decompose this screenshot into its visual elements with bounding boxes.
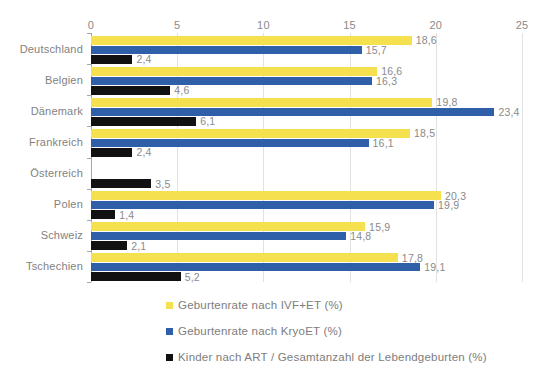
- bar-value-label: 18,6: [416, 34, 437, 46]
- y-axis-tick: [87, 220, 91, 221]
- y-axis-tick: [87, 33, 91, 34]
- plot-area: 18,615,72,416,616,34,619,823,46,118,516,…: [91, 33, 522, 282]
- bar-value-label: 19,9: [438, 199, 459, 211]
- bar-value-label: 6,1: [200, 115, 215, 127]
- x-axis-tick-label: 15: [343, 19, 356, 31]
- bar-value-label: 19,8: [436, 96, 457, 108]
- bar: [91, 263, 420, 271]
- bar-value-label: 15,7: [366, 44, 387, 56]
- bar: [91, 210, 115, 219]
- y-axis-tick: [87, 158, 91, 159]
- bar: [91, 67, 377, 76]
- bar-value-label: 17,8: [402, 252, 423, 264]
- x-axis-tick-label: 20: [429, 19, 442, 31]
- bar-chart: DeutschlandBelgienDänemarkFrankreichÖste…: [0, 0, 551, 377]
- legend-swatch-icon: [166, 354, 173, 361]
- x-axis-tick-label: 25: [516, 19, 529, 31]
- legend-swatch-icon: [166, 302, 173, 309]
- category-label: Frankreich: [29, 136, 83, 148]
- y-axis-tick: [87, 282, 91, 283]
- bar-value-label: 16,1: [373, 137, 394, 149]
- bar-value-label: 1,4: [119, 209, 134, 221]
- bar: [91, 139, 369, 147]
- bar: [91, 272, 181, 281]
- y-axis-tick: [87, 251, 91, 252]
- legend-item[interactable]: Kinder nach ART / Gesamtanzahl der Leben…: [0, 344, 551, 370]
- bar: [91, 86, 170, 95]
- y-axis-tick: [87, 64, 91, 65]
- bar: [91, 108, 494, 116]
- bar-value-label: 3,5: [155, 178, 170, 190]
- x-axis: 0510152025: [91, 5, 522, 31]
- bar: [91, 148, 132, 157]
- legend: Geburtenrate nach IVF+ET (%)Geburtenrate…: [0, 292, 551, 370]
- legend-label: Geburtenrate nach IVF+ET (%): [178, 299, 343, 311]
- bar: [91, 241, 127, 250]
- bar-value-label: 23,4: [498, 106, 519, 118]
- legend-swatch-icon: [166, 328, 173, 335]
- x-axis-tick-label: 10: [257, 19, 270, 31]
- gridline: [522, 33, 523, 282]
- category-label: Deutschland: [20, 43, 83, 55]
- legend-item[interactable]: Geburtenrate nach IVF+ET (%): [0, 292, 551, 318]
- bar: [91, 222, 365, 231]
- legend-label: Geburtenrate nach KryoET (%): [178, 325, 342, 337]
- bar: [91, 117, 196, 126]
- bar-value-label: 16,3: [376, 75, 397, 87]
- y-axis-tick: [87, 126, 91, 127]
- y-axis-tick: [87, 189, 91, 190]
- bar: [91, 201, 434, 209]
- bar: [91, 55, 132, 64]
- bar: [91, 179, 151, 188]
- bar: [91, 253, 398, 262]
- bar-value-label: 2,4: [136, 146, 151, 158]
- bar-value-label: 19,1: [424, 261, 445, 273]
- x-axis-tick-label: 5: [174, 19, 180, 31]
- legend-item[interactable]: Geburtenrate nach KryoET (%): [0, 318, 551, 344]
- gridline: [436, 33, 437, 282]
- bar-value-label: 2,1: [131, 240, 146, 252]
- bar-value-label: 15,9: [369, 221, 390, 233]
- bar: [91, 98, 432, 107]
- category-label: Polen: [54, 198, 83, 210]
- bar: [91, 46, 362, 54]
- category-axis: DeutschlandBelgienDänemarkFrankreichÖste…: [0, 33, 87, 282]
- bar-value-label: 5,2: [185, 271, 200, 283]
- bar-value-label: 14,8: [350, 230, 371, 242]
- bar: [91, 129, 410, 138]
- x-axis-tick-label: 0: [88, 19, 94, 31]
- category-label: Dänemark: [31, 105, 83, 117]
- y-axis-tick: [87, 95, 91, 96]
- category-label: Belgien: [45, 74, 83, 86]
- bar: [91, 77, 372, 85]
- category-label: Schweiz: [41, 229, 83, 241]
- bar: [91, 191, 441, 200]
- bar: [91, 36, 412, 45]
- bar-value-label: 18,5: [414, 127, 435, 139]
- bar: [91, 232, 346, 240]
- legend-label: Kinder nach ART / Gesamtanzahl der Leben…: [178, 351, 487, 363]
- category-label: Österreich: [30, 167, 83, 179]
- bar-value-label: 2,4: [136, 53, 151, 65]
- bar-value-label: 4,6: [174, 84, 189, 96]
- category-label: Tschechien: [26, 260, 83, 272]
